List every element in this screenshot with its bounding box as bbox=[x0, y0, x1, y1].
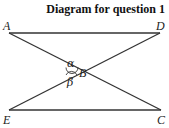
angle-alpha-label: α bbox=[67, 57, 75, 70]
geometry-diagram: A D E C B α β bbox=[0, 0, 169, 128]
point-d-label: D bbox=[155, 19, 165, 33]
point-a-label: A bbox=[2, 19, 11, 33]
point-b-label: B bbox=[79, 66, 87, 80]
angle-beta-label: β bbox=[66, 76, 73, 89]
point-e-label: E bbox=[2, 113, 11, 127]
point-c-label: C bbox=[157, 113, 166, 127]
